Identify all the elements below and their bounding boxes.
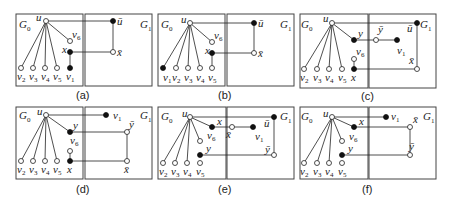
node-y-bar <box>374 38 379 43</box>
label-u: u <box>182 107 188 119</box>
caption-c: (c) <box>361 90 374 102</box>
label-x-bar: x̄ <box>408 54 414 66</box>
label-u-bar: ū <box>117 15 123 27</box>
node-u-bar <box>415 21 420 26</box>
node-v1 <box>251 125 256 130</box>
node-u <box>44 19 49 24</box>
panel-e: G0 G1 u x x̄ v1 ū v6 y ȳ v2 v3 v4 v5 (e) <box>158 107 294 195</box>
node-y <box>340 153 345 158</box>
node-y-bar <box>408 153 413 158</box>
node-x <box>352 125 357 130</box>
label-u: u <box>36 11 42 23</box>
label-x-bar: x̄ <box>225 128 231 140</box>
label-x-bar: x̄ <box>412 113 418 125</box>
node-x-bar <box>252 51 257 56</box>
node-x-bar <box>111 50 116 55</box>
label-y: y <box>205 142 211 154</box>
label-y: y <box>347 142 353 154</box>
label-y: y <box>72 119 78 131</box>
node-x <box>210 51 215 56</box>
label-x: x <box>204 44 210 56</box>
label-x: x <box>66 163 72 175</box>
node-v5-upper <box>340 139 345 144</box>
node-u-bar <box>252 21 257 26</box>
node-v1 <box>395 38 400 43</box>
panel-a: G0 G1 u ū v6 x x̄ v2 v3 v4 v5 v1 (a) <box>16 11 152 101</box>
panel-f: G0 G1 u v1 x x̄ v6 y ȳ v2 v3 v4 v5 (f) <box>300 107 436 195</box>
node-y <box>352 38 357 43</box>
node-y <box>198 153 203 158</box>
label-y: y <box>357 27 363 39</box>
node-v5 <box>210 66 215 71</box>
panel-b: G0 G1 u ū v6 x x̄ v1 v2 v3 v4 v5 (b) <box>158 13 294 101</box>
label-x-bar: x̄ <box>116 46 122 58</box>
caption-e: (e) <box>218 183 231 195</box>
node-v1 <box>161 66 166 71</box>
label-x: x <box>358 115 364 127</box>
node-v1 <box>384 115 389 120</box>
panel-c: G0 G1 u y ȳ ū v1 v6 x̄ v2 v3 v4 v5 x (c) <box>300 12 436 102</box>
node-v6 <box>352 57 357 62</box>
node-y-bar <box>272 153 277 158</box>
label-u: u <box>37 105 43 117</box>
node-u <box>330 115 335 120</box>
node-u <box>188 21 193 26</box>
node-x-bar <box>415 67 420 72</box>
label-x: x <box>61 43 67 55</box>
label-u-bar: ū <box>258 17 264 29</box>
caption-a: (a) <box>76 89 89 101</box>
node-x <box>68 50 73 55</box>
label-u: u <box>181 13 187 25</box>
caption-d: (d) <box>76 183 89 195</box>
label-u-bar: ū <box>407 22 413 34</box>
label-x: x <box>350 71 356 83</box>
label-x-bar: x̄ <box>257 47 263 59</box>
node-v6 <box>68 149 73 154</box>
node-u <box>188 115 193 120</box>
node-u <box>330 21 335 26</box>
node-v2 <box>174 66 179 71</box>
panel-d: G0 G1 u v1 y ȳ v6 v2 v3 v4 v5 x x̄ (d) <box>16 105 152 195</box>
label-u-bar: ū <box>264 117 270 129</box>
label-x-bar: x̄ <box>123 163 129 175</box>
caption-b: (b) <box>218 89 231 101</box>
node-v5-upper <box>198 139 203 144</box>
node-u <box>44 113 49 118</box>
label-u: u <box>323 12 329 24</box>
node-v3 <box>186 66 191 71</box>
node-x-bar <box>408 125 413 130</box>
figure-canvas: G0 G1 u ū v6 x x̄ v2 v3 v4 v5 v1 (a) <box>0 0 452 206</box>
caption-f: (f) <box>362 183 372 195</box>
node-v1 <box>104 113 109 118</box>
label-x: x <box>216 115 222 127</box>
node-u-bar <box>111 19 116 24</box>
node-v4 <box>198 66 203 71</box>
node-u-bar <box>272 115 277 120</box>
label-u: u <box>323 107 329 119</box>
node-y-bar <box>125 130 130 135</box>
